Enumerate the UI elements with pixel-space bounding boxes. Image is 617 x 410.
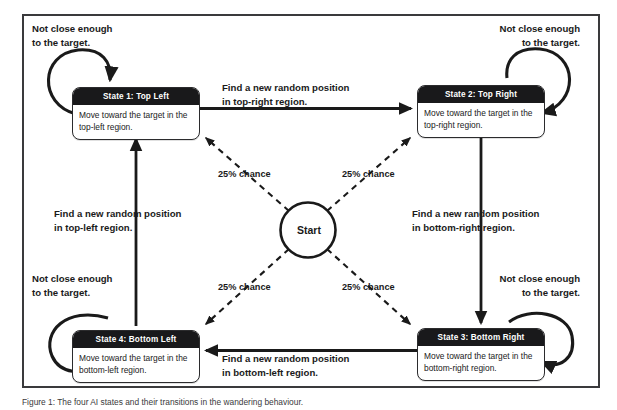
chance-label-start-to-state-1: 25% chance (218, 168, 271, 181)
self-loop-label-state-3: Not close enough to the target. (470, 272, 580, 299)
state-box-top-right[interactable]: State 2: Top Right Move toward the targe… (417, 85, 545, 138)
chance-label-start-to-state-4: 25% chance (218, 281, 271, 294)
self-loop-label-state-1: Not close enough to the target. (32, 22, 112, 49)
state-3-title: State 3: Bottom Right (418, 329, 544, 346)
transition-label-state-4-to-state-1: Find a new random position in top-left r… (54, 207, 181, 234)
state-box-bottom-left[interactable]: State 4: Bottom Left Move toward the tar… (72, 330, 200, 383)
self-loop-label-state-2: Not close enough to the target. (470, 22, 580, 49)
state-box-bottom-right[interactable]: State 3: Bottom Right Move toward the ta… (417, 328, 545, 381)
figure-caption: Figure 1: The four AI states and their t… (22, 397, 582, 410)
state-machine-diagram: Start State 1: Top Left Move toward the … (0, 0, 617, 410)
state-1-description: Move toward the target in the top-left r… (73, 105, 199, 138)
state-2-description: Move toward the target in the top-right … (418, 103, 544, 136)
state-3-description: Move toward the target in the bottom-rig… (418, 346, 544, 379)
state-4-title: State 4: Bottom Left (73, 331, 199, 348)
self-loop-label-state-4: Not close enough to the target. (32, 272, 112, 299)
start-node-label: Start (281, 224, 337, 236)
state-4-description: Move toward the target in the bottom-lef… (73, 348, 199, 381)
chance-label-start-to-state-2: 25% chance (342, 168, 395, 181)
state-1-title: State 1: Top Left (73, 88, 199, 105)
transition-label-state-3-to-state-4: Find a new random position in bottom-lef… (222, 352, 349, 379)
transition-label-state-1-to-state-2: Find a new random position in top-right … (222, 81, 349, 108)
chance-label-start-to-state-3: 25% chance (342, 281, 395, 294)
state-box-top-left[interactable]: State 1: Top Left Move toward the target… (72, 87, 200, 140)
transition-label-state-2-to-state-3: Find a new random position in bottom-rig… (412, 207, 539, 234)
state-2-title: State 2: Top Right (418, 86, 544, 103)
